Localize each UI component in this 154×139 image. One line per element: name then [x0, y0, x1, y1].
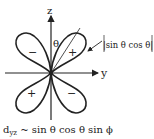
- annotation-arrow: [88, 41, 102, 51]
- caption-rest: ~ sin θ cos θ sin ϕ: [17, 124, 113, 135]
- annotation-label: |sin θ cos θ|: [103, 39, 153, 51]
- y-axis-label: y: [100, 67, 108, 80]
- sign-lower-right: −: [67, 87, 76, 100]
- origin-dot: [49, 71, 53, 75]
- dyz-orbital-diagram: z y θ − + + − |sin θ cos θ| dyz ~ sin θ …: [0, 0, 154, 139]
- theta-label: θ: [53, 38, 59, 49]
- caption-subscript: yz: [8, 129, 17, 137]
- sign-upper-left: −: [28, 46, 37, 59]
- z-axis-label: z: [47, 5, 52, 16]
- caption: dyz ~ sin θ cos θ sin ϕ: [3, 124, 113, 137]
- sign-lower-left: +: [27, 87, 36, 100]
- sign-upper-right: +: [68, 46, 77, 59]
